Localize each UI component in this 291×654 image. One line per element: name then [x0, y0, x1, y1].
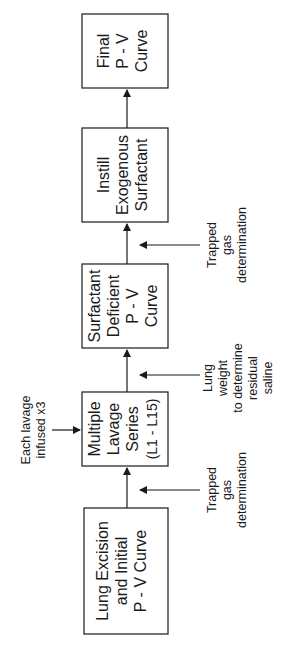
svg-text:residual: residual [246, 356, 260, 400]
svg-text:P - V: P - V [124, 288, 141, 324]
svg-text:Each lavage: Each lavage [19, 396, 33, 465]
svg-text:Instill: Instill [95, 157, 112, 193]
svg-text:saline: saline [261, 362, 275, 395]
svg-text:determination: determination [235, 452, 249, 528]
svg-text:gas: gas [220, 235, 234, 255]
svg-text:to determine: to determine [231, 343, 245, 413]
svg-text:gas: gas [220, 480, 234, 500]
svg-text:P - V: P - V [114, 33, 131, 69]
svg-text:Final: Final [95, 34, 112, 69]
svg-text:infused x3: infused x3 [34, 401, 48, 458]
svg-text:Trapped: Trapped [205, 222, 219, 268]
svg-text:Lung: Lung [201, 364, 215, 392]
svg-text:Lavage: Lavage [105, 403, 122, 456]
svg-text:weight: weight [216, 359, 230, 397]
svg-text:Series: Series [124, 406, 141, 451]
note-lung-weight: Lung weight to determine residual saline [201, 343, 275, 413]
svg-text:determination: determination [235, 207, 249, 283]
svg-text:Lung Excision: Lung Excision [94, 521, 111, 621]
note-trapped-gas-1: Trapped gas determination [205, 452, 249, 528]
text-final-pv: Final P - V Curve [95, 30, 150, 73]
svg-text:(L1 - L15): (L1 - L15) [144, 399, 160, 460]
flow-diagram: Lung Excision and Initial P - V Curve Mu… [0, 0, 291, 654]
svg-text:P - V Curve: P - V Curve [132, 530, 149, 613]
svg-text:Surfactant: Surfactant [133, 138, 150, 211]
note-lavage-infused: Each lavage infused x3 [19, 396, 48, 465]
svg-text:Deficient: Deficient [105, 274, 122, 337]
svg-text:and Initial: and Initial [113, 537, 130, 606]
svg-text:Multiple: Multiple [86, 401, 103, 456]
svg-text:Surfactant: Surfactant [86, 269, 103, 342]
svg-text:Trapped: Trapped [205, 467, 219, 513]
note-trapped-gas-2: Trapped gas determination [205, 207, 249, 283]
svg-text:Exogenous: Exogenous [114, 135, 131, 215]
svg-text:Curve: Curve [133, 30, 150, 73]
svg-text:Curve: Curve [143, 285, 160, 328]
